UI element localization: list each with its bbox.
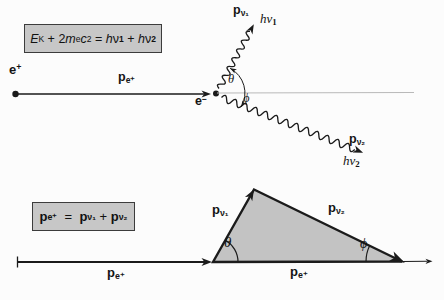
positron-label: e+ xyxy=(9,63,21,77)
photon1-arrowhead xyxy=(246,23,257,35)
photon1-wavy-line xyxy=(216,30,252,90)
energy-equation-box: EK + 2mec2 = hν1 + hν2 xyxy=(24,24,162,53)
photon2-wavy-line xyxy=(220,94,356,152)
photon1-group xyxy=(216,23,257,91)
electron-label: e− xyxy=(195,95,207,109)
triangle-theta-label: θ xyxy=(224,235,231,251)
triangle-base-label: pe⁺ xyxy=(290,265,308,280)
positron-momentum-label-bottom: pe⁺ xyxy=(107,266,125,281)
photon2-energy-label: hν2 xyxy=(343,154,360,169)
photon1-energy-label: hν1 xyxy=(260,12,277,27)
momentum-equation-box: pe⁺ = pν₁ + pν₂ xyxy=(32,202,135,231)
annihilation-diagram: EK + 2mec2 = hν1 + hν2 e+ pe⁺ e− pν₁ hν1… xyxy=(0,0,444,300)
photon1-momentum-label: pν₁ xyxy=(233,4,249,18)
photon2-group xyxy=(220,94,364,156)
momentum-triangle xyxy=(213,190,402,263)
triangle-pnu2-label: pν₂ xyxy=(328,201,345,216)
phi-label-top: ϕ xyxy=(244,92,250,104)
photon2-momentum-label: pν₂ xyxy=(349,133,365,147)
triangle-phi-label: ϕ xyxy=(360,237,367,252)
theta-label-top: θ xyxy=(228,73,234,86)
positron-momentum-label-top: pe⁺ xyxy=(118,71,135,85)
triangle-pnu1-label: pν₁ xyxy=(212,203,229,218)
